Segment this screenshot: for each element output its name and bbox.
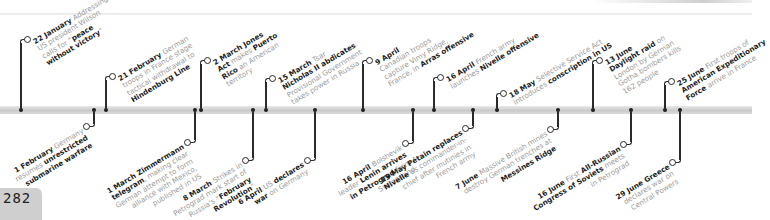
- event-circle-icon: [242, 157, 249, 164]
- timeline-bar: [0, 106, 752, 114]
- event-label: 13 June Daylight raid onLondon by German…: [604, 23, 687, 96]
- event-circle-icon: [269, 75, 276, 82]
- connector-line: [252, 110, 254, 158]
- connector-line: [412, 110, 414, 141]
- connector-line: [20, 43, 22, 110]
- page-number: 282: [3, 190, 31, 206]
- event-circle-icon: [402, 140, 409, 147]
- event-label-line: introduces conscription in US: [512, 42, 614, 108]
- connector-line: [433, 81, 435, 110]
- event-circle-icon: [304, 157, 311, 164]
- connector-line: [314, 110, 316, 158]
- event-circle-icon: [24, 36, 31, 43]
- connector-line: [664, 85, 666, 110]
- event-circle-icon: [437, 74, 444, 81]
- event-label: 21 February Germantroops in France stage…: [117, 35, 203, 105]
- event-label: 22 January Addressing Senate,US presiden…: [32, 0, 148, 68]
- event-circle-icon: [669, 159, 676, 166]
- connector-line: [592, 64, 594, 110]
- connector-line: [362, 64, 364, 110]
- connector-line: [105, 80, 107, 110]
- top-shade: [592, 0, 752, 3]
- event-circle-icon: [184, 139, 191, 146]
- event-label: 2 March JonesAct makes PuertoRico an Ame…: [212, 25, 288, 89]
- event-circle-icon: [109, 73, 116, 80]
- connector-line: [200, 64, 202, 110]
- event-circle-icon: [462, 125, 469, 132]
- connector-line: [194, 110, 196, 140]
- event-circle-icon: [83, 123, 90, 130]
- event-label: 29 June Greecedeclares war onCentral Pow…: [615, 163, 680, 216]
- event-label: 25 June First troops ofAmerican Expediti…: [676, 31, 770, 103]
- connector-line: [630, 110, 632, 142]
- event-circle-icon: [668, 78, 675, 85]
- event-text: destroy German trenches at: [462, 136, 553, 196]
- event-label: 15 March TsarNicholas II abdicates.Provi…: [277, 34, 368, 107]
- event-label-line: American Expeditionary: [680, 38, 767, 95]
- event-circle-icon: [620, 141, 627, 148]
- connector-line: [679, 110, 681, 160]
- event-highlight-text: American Expeditionary: [680, 37, 768, 95]
- event-label-line: Congress of Soviets meets: [532, 152, 626, 213]
- connector-line: [265, 82, 267, 110]
- event-circle-icon: [547, 126, 554, 133]
- event-circle-icon: [366, 57, 373, 64]
- event-label: 1 February Germanyresumes unrestrictedsu…: [10, 127, 94, 191]
- event-circle-icon: [500, 90, 507, 97]
- event-circle-icon: [596, 57, 603, 64]
- event-circle-icon: [204, 57, 211, 64]
